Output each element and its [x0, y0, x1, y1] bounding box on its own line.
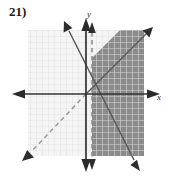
graph-figure: 21) — [0, 0, 171, 180]
x-axis-left-arrow-icon — [12, 89, 25, 98]
y-axis-down-arrow-icon — [81, 159, 90, 172]
y-axis-label: y — [87, 10, 91, 19]
shaded-solution-region — [92, 4, 146, 160]
coordinate-plane — [0, 0, 171, 180]
y-axis-up-arrow-icon — [81, 18, 90, 31]
diagonal-down-right-arrow-icon — [130, 160, 140, 171]
x-axis-label: x — [157, 93, 161, 102]
